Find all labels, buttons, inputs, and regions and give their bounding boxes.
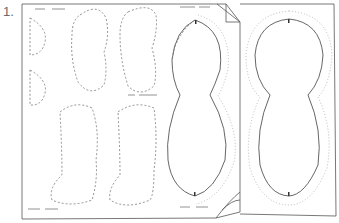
pattern-diagram — [0, 0, 339, 223]
body-piece-right — [246, 11, 332, 205]
